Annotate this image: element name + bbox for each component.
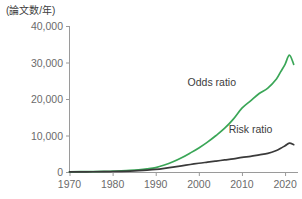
line-chart-plot: 010,00020,00030,00040,000 19701980199020… — [0, 0, 302, 199]
y-tick-label: 0 — [57, 166, 63, 178]
y-tick-label: 30,000 — [31, 57, 63, 69]
x-axis-ticks: 197019801990200020102020 — [58, 172, 297, 190]
y-tick-label: 40,000 — [31, 20, 63, 32]
chart-container: (論文数/年) 010,00020,00030,00040,000 197019… — [0, 0, 302, 199]
x-tick-label: 1980 — [101, 178, 125, 190]
y-tick-label: 10,000 — [31, 130, 63, 142]
y-axis-ticks: 010,00020,00030,00040,000 — [31, 20, 70, 178]
x-tick-label: 2000 — [187, 178, 211, 190]
series-label-odds-ratio: Odds ratio — [188, 76, 237, 88]
y-tick-label: 20,000 — [31, 93, 63, 105]
x-tick-label: 2020 — [273, 178, 297, 190]
x-tick-label: 1990 — [144, 178, 168, 190]
x-tick-label: 1970 — [58, 178, 82, 190]
series-labels-group: Odds ratioRisk ratio — [188, 76, 273, 134]
series-label-risk-ratio: Risk ratio — [229, 123, 273, 135]
data-series-group — [70, 55, 294, 172]
x-tick-label: 2010 — [230, 178, 254, 190]
